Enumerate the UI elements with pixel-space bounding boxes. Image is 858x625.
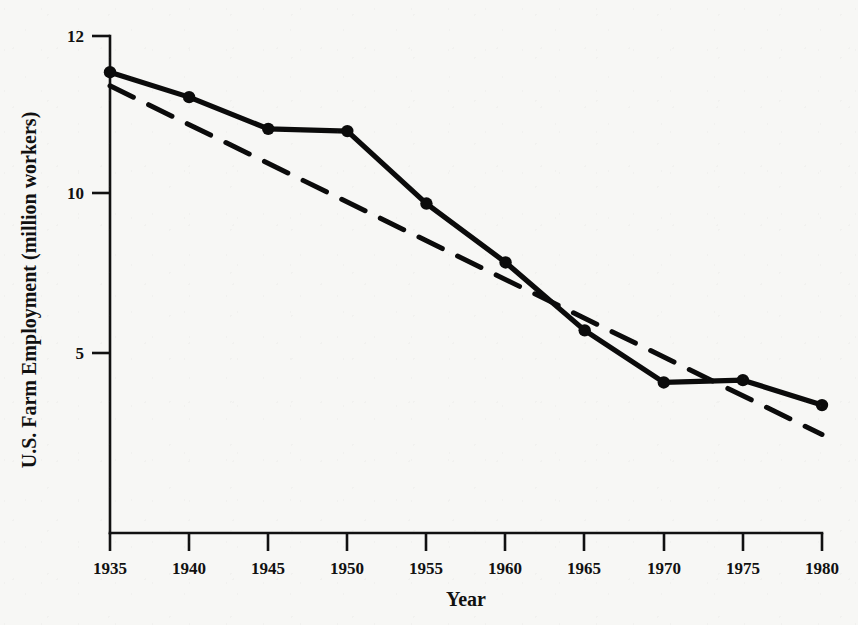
x-tick-label-1975: 1975 [726,559,760,578]
farm-employment-line-chart: 12 10 5 U.S. Farm Employment (million wo… [0,0,858,625]
data-point-marker [658,376,670,388]
y-tick-label-10: 10 [67,184,84,203]
y-axis-group: 12 10 5 U.S. Farm Employment (million wo… [18,27,110,533]
data-point-marker [578,324,590,336]
x-tick-label-1965: 1965 [567,559,601,578]
x-tick-label-1955: 1955 [409,559,443,578]
y-axis-title: U.S. Farm Employment (million workers) [18,112,41,469]
data-point-marker [104,66,116,78]
x-tick-label-1940: 1940 [172,559,206,578]
y-tick-label-12: 12 [67,27,84,46]
data-series-line [110,72,822,405]
data-point-marker [341,125,353,137]
x-tick-label-1935: 1935 [93,559,127,578]
x-tick-label-1950: 1950 [330,559,364,578]
x-tick-label-1980: 1980 [805,559,839,578]
data-point-markers [104,66,828,411]
x-axis-title: Year [446,588,486,610]
y-tick-label-5: 5 [76,344,85,363]
x-tick-label-1970: 1970 [647,559,681,578]
data-point-marker [262,123,274,135]
chart-figure: 12 10 5 U.S. Farm Employment (million wo… [0,0,858,625]
data-point-marker [737,374,749,386]
data-point-marker [183,91,195,103]
x-axis-group: 1935 1940 1945 1950 1955 1960 1965 1970 … [93,533,839,610]
x-tick-label-1960: 1960 [488,559,522,578]
data-point-marker [816,399,828,411]
data-point-marker [420,197,432,209]
data-point-marker [499,256,511,268]
x-tick-label-1945: 1945 [251,559,285,578]
